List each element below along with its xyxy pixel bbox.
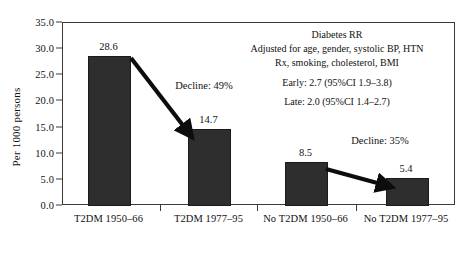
info-line-title: Diabetes RR xyxy=(222,28,452,42)
info-line-early: Early: 2.7 (95%CI 1.9–3.8) xyxy=(222,76,452,90)
x-axis-category-label: T2DM 1950–66 xyxy=(74,213,143,224)
bar xyxy=(88,56,131,206)
bar xyxy=(285,162,328,206)
bar-value-label: 28.6 xyxy=(99,41,117,52)
y-axis-tick-label: 20.0 xyxy=(2,95,54,106)
info-line-adjusted-2: Rx, smoking, cholesterol, BMI xyxy=(222,56,452,70)
y-axis-tick-label: 15.0 xyxy=(2,121,54,132)
x-axis-category-label: T2DM 1977–95 xyxy=(174,213,243,224)
y-axis-tick-label: 25.0 xyxy=(2,69,54,80)
x-axis-category-label: No T2DM 1977–95 xyxy=(364,213,449,224)
x-axis-tick-mark xyxy=(160,205,161,211)
decline-annotation-2: Decline: 35% xyxy=(351,135,408,146)
y-axis-tick-label: 10.0 xyxy=(2,147,54,158)
chart-figure: Per 1000 persons 0.05.010.015.020.025.03… xyxy=(0,0,470,254)
info-annotation-block: Diabetes RR Adjusted for age, gender, sy… xyxy=(222,28,452,109)
y-axis-tick-label: 30.0 xyxy=(2,43,54,54)
bar-value-label: 8.5 xyxy=(299,147,312,158)
x-axis-tick-mark xyxy=(257,205,258,211)
bar xyxy=(386,178,429,206)
bar-value-label: 14.7 xyxy=(199,114,217,125)
bar xyxy=(188,129,231,206)
x-axis-tick-mark xyxy=(356,205,357,211)
y-axis-tick-label: 0.0 xyxy=(2,200,54,211)
y-axis-tick-label: 35.0 xyxy=(2,17,54,28)
info-line-adjusted-1: Adjusted for age, gender, systolic BP, H… xyxy=(222,42,452,56)
info-line-late: Late: 2.0 (95%CI 1.4–2.7) xyxy=(222,95,452,109)
y-axis-tick-label: 5.0 xyxy=(2,173,54,184)
bar-value-label: 5.4 xyxy=(399,163,412,174)
x-axis-category-label: No T2DM 1950–66 xyxy=(263,213,348,224)
